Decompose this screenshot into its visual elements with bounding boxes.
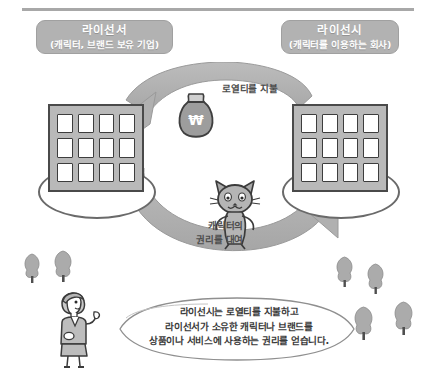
building-window (363, 114, 379, 133)
royalty-payment-label: 로열티를 지불 (222, 81, 278, 95)
building-window (343, 114, 359, 133)
building-window (322, 138, 338, 157)
character-rights-line1: 캐릭터의 (169, 219, 243, 233)
bubble-line-3: 상품이나 서비스에 사용하는 권리를 얻습니다. (133, 334, 345, 349)
building-window (78, 163, 94, 182)
tree-icon (52, 249, 74, 283)
building-window (301, 163, 317, 182)
building-window (57, 114, 73, 133)
tree-icon (365, 262, 386, 295)
building-window (343, 163, 359, 182)
party-licensee-subtitle: (캐릭터를 이용하는 회사) (289, 39, 392, 51)
presenter-person-icon (48, 286, 114, 370)
building-window (119, 138, 135, 157)
party-card-licensee[interactable]: 라이선시 (캐릭터를 이용하는 회사) (281, 20, 399, 54)
tree-icon (334, 255, 355, 288)
party-licensee-title: 라이선시 (317, 23, 362, 37)
building-window (78, 138, 94, 157)
building-window (57, 138, 73, 157)
building-window (119, 163, 135, 182)
building-window (343, 138, 359, 157)
building-window (363, 163, 379, 182)
speech-bubble-text: 라이선시는 로열티를 지불하고 라이선서가 소유한 캐릭터나 브랜드를 상품이나… (133, 305, 345, 349)
diagram-canvas: 라이선서 (캐릭터, 브랜드 보유 기업) 라이선시 (캐릭터를 이용하는 회사… (0, 0, 435, 387)
building-window (99, 114, 115, 133)
party-licensor-subtitle: (캐릭터, 브랜드 보유 기업) (50, 39, 159, 51)
building-window (99, 163, 115, 182)
character-rights-label: 캐릭터의 권리를 대여 (169, 219, 243, 247)
building-window (99, 138, 115, 157)
building-window (119, 114, 135, 133)
party-licensor-title: 라이선서 (82, 23, 127, 37)
won-symbol: ₩ (188, 112, 204, 128)
bubble-line-1: 라이선시는 로열티를 지불하고 (133, 305, 345, 320)
tree-icon (392, 300, 415, 336)
building-window (78, 114, 94, 133)
money-bag-icon: ₩ (176, 92, 216, 138)
party-card-licensor[interactable]: 라이선서 (캐릭터, 브랜드 보유 기업) (36, 20, 173, 54)
character-rights-line2: 권리를 대여 (169, 233, 243, 247)
office-building-icon (292, 104, 388, 192)
bubble-line-2: 라이선서가 소유한 캐릭터나 브랜드를 (133, 320, 345, 335)
office-building-icon (48, 104, 144, 192)
top-divider-rule (22, 8, 414, 11)
building-window (363, 138, 379, 157)
building-window (322, 163, 338, 182)
building-window (57, 163, 73, 182)
building-window (301, 138, 317, 157)
tree-icon (22, 252, 42, 284)
building-window (301, 114, 317, 133)
building-window (322, 114, 338, 133)
